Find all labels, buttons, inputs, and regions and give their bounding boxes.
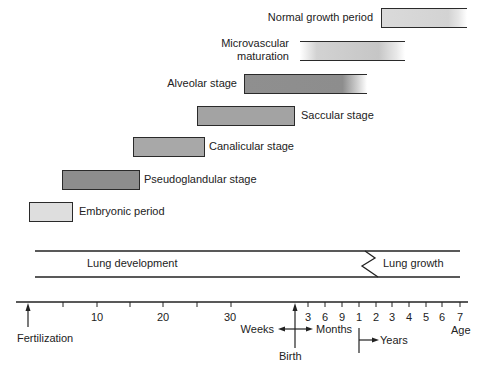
fertilization-arrow-icon bbox=[26, 303, 31, 327]
tick-label-year: 7 bbox=[448, 311, 472, 324]
pseudoglandular-stage-label: Pseudoglandular stage bbox=[144, 173, 257, 186]
weeks-label: Weeks bbox=[241, 323, 274, 336]
saccular-stage-label: Saccular stage bbox=[301, 109, 374, 122]
months-label: Months bbox=[316, 323, 352, 336]
age-label: Age bbox=[451, 324, 471, 337]
canalicular-stage-bar bbox=[133, 137, 205, 157]
pseudoglandular-stage-bar bbox=[62, 170, 140, 190]
canalicular-stage-label: Canalicular stage bbox=[209, 140, 294, 153]
lung-growth-label: Lung growth bbox=[383, 257, 444, 270]
birth-label: Birth bbox=[279, 350, 302, 363]
time-axis bbox=[16, 302, 468, 307]
tick-label-week: 20 bbox=[151, 311, 175, 324]
microvascular-maturation-bar bbox=[300, 41, 405, 61]
band-break-zigzag bbox=[362, 251, 378, 277]
alveolar-stage-bar bbox=[244, 74, 367, 94]
alveolar-stage-label: Alveolar stage bbox=[167, 77, 237, 90]
tick-label-week: 30 bbox=[218, 311, 242, 324]
fertilization-label: Fertilization bbox=[17, 332, 73, 345]
lung-development-timeline: Normal growth period Microvascular matur… bbox=[0, 0, 483, 370]
years-label: Years bbox=[380, 334, 408, 347]
embryonic-period-label: Embryonic period bbox=[79, 205, 165, 218]
tick-label-week: 10 bbox=[85, 311, 109, 324]
embryonic-period-bar bbox=[29, 202, 73, 222]
microvascular-label-line2: maturation bbox=[237, 50, 289, 63]
saccular-stage-bar bbox=[197, 106, 295, 126]
normal-growth-period-bar bbox=[381, 8, 467, 28]
years-arrow-icon bbox=[359, 328, 379, 353]
birth-arrow-icon bbox=[293, 303, 298, 348]
lung-development-label: Lung development bbox=[87, 257, 178, 270]
normal-growth-period-label: Normal growth period bbox=[268, 11, 373, 24]
microvascular-label-line1: Microvascular bbox=[221, 37, 289, 50]
